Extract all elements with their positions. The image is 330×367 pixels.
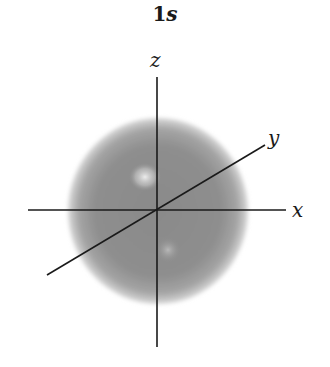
- orbital-diagram: [0, 0, 330, 367]
- y-axis-label: y: [268, 128, 279, 148]
- x-axis-label: x: [292, 200, 303, 220]
- orbital-figure: 1s: [0, 0, 330, 367]
- z-axis-label: z: [150, 50, 161, 70]
- lower-highlight: [155, 237, 181, 263]
- orbital-sphere: [68, 118, 248, 304]
